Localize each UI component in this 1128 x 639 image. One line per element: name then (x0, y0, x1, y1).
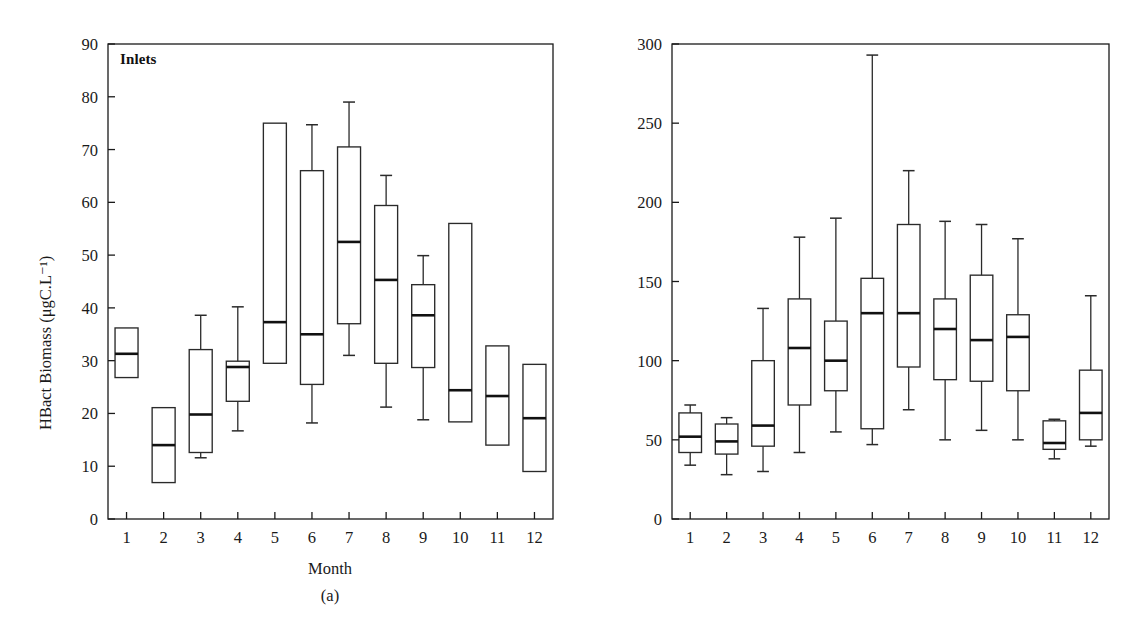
box-plot-item (338, 102, 361, 355)
panel-a-x-axis-title: Month (270, 559, 390, 579)
x-tick-label: 12 (526, 528, 543, 547)
box-plot-item (970, 225, 993, 431)
chart-panel-b: 050100150200250300123456789101112 Inner … (564, 0, 1128, 639)
box-iqr (1080, 370, 1103, 440)
x-tick-label: 2 (723, 528, 731, 547)
y-tick-label: 40 (82, 299, 99, 318)
box-iqr (861, 278, 884, 428)
y-tick-label: 60 (82, 193, 99, 212)
box-iqr (679, 413, 702, 453)
x-tick-label: 8 (382, 528, 390, 547)
boxplot-a: 0102030405060708090123456789101112 (0, 0, 564, 639)
box-iqr (375, 206, 398, 364)
x-tick-label: 9 (977, 528, 985, 547)
panel-a-y-axis-title: HBact Biomass (μgC.L⁻¹) (36, 256, 56, 430)
chart-panel-a: 0102030405060708090123456789101112 Inlet… (0, 0, 564, 639)
box-iqr (1007, 315, 1030, 391)
box-iqr (825, 321, 848, 391)
box-plot-item (486, 346, 509, 445)
x-tick-label: 8 (941, 528, 949, 547)
x-tick-label: 9 (419, 528, 427, 547)
box-iqr (189, 350, 212, 453)
box-iqr (338, 147, 361, 324)
box-plot-item (375, 175, 398, 407)
box-iqr (300, 171, 323, 385)
y-tick-label: 30 (82, 352, 99, 371)
box-plot-item (1007, 239, 1030, 440)
x-tick-label: 12 (1083, 528, 1100, 547)
y-tick-label: 250 (637, 114, 662, 133)
x-tick-label: 1 (686, 528, 694, 547)
box-iqr (263, 123, 286, 363)
x-tick-label: 2 (160, 528, 168, 547)
box-plot-item (300, 125, 323, 423)
box-iqr (715, 424, 738, 454)
x-tick-label: 10 (1010, 528, 1027, 547)
box-iqr (1043, 421, 1066, 450)
x-tick-label: 7 (905, 528, 913, 547)
y-tick-label: 100 (637, 352, 662, 371)
box-plot-item (825, 218, 848, 432)
x-tick-label: 4 (795, 528, 803, 547)
box-iqr (788, 299, 811, 405)
panel-a-caption: (a) (270, 586, 390, 606)
x-tick-label: 7 (345, 528, 353, 547)
box-plot-item (1080, 296, 1103, 446)
box-iqr (449, 223, 472, 421)
box-plot-item (523, 364, 546, 471)
x-tick-label: 11 (489, 528, 505, 547)
y-tick-label: 200 (637, 193, 662, 212)
panel-a-title: Inlets (120, 50, 156, 69)
box-plot-item (263, 123, 286, 363)
box-plot-item (152, 408, 175, 483)
y-tick-label: 70 (82, 141, 99, 160)
box-plot-item (115, 328, 138, 378)
y-tick-label: 0 (90, 510, 98, 529)
box-plot-item (189, 315, 212, 458)
y-tick-label: 20 (82, 404, 99, 423)
x-tick-label: 4 (234, 528, 242, 547)
x-tick-label: 5 (271, 528, 279, 547)
box-plot-item (226, 307, 249, 431)
box-plot-item (449, 223, 472, 421)
boxplot-b: 050100150200250300123456789101112 (564, 0, 1128, 639)
x-tick-label: 1 (122, 528, 130, 547)
box-plot-item (788, 237, 811, 452)
box-plot-item (897, 171, 920, 410)
x-tick-label: 3 (197, 528, 205, 547)
box-iqr (970, 275, 993, 381)
x-tick-label: 5 (832, 528, 840, 547)
box-iqr (412, 285, 435, 368)
x-tick-label: 6 (308, 528, 316, 547)
y-tick-label: 80 (82, 88, 99, 107)
box-iqr (752, 361, 775, 447)
x-tick-label: 3 (759, 528, 767, 547)
x-tick-label: 11 (1046, 528, 1062, 547)
y-tick-label: 90 (82, 35, 99, 54)
y-tick-label: 50 (82, 246, 99, 265)
y-tick-label: 300 (637, 35, 662, 54)
y-tick-label: 50 (646, 431, 663, 450)
box-plot-item (934, 221, 957, 440)
box-plot-item (412, 256, 435, 420)
y-tick-label: 10 (82, 457, 99, 476)
box-plot-item (752, 308, 775, 471)
box-plot-item (861, 55, 884, 445)
box-plot-item (715, 418, 738, 475)
x-tick-label: 6 (868, 528, 876, 547)
x-tick-label: 10 (452, 528, 469, 547)
y-tick-label: 0 (654, 510, 662, 529)
y-tick-label: 150 (637, 273, 662, 292)
figure-container: 0102030405060708090123456789101112 Inlet… (0, 0, 1128, 639)
box-iqr (934, 299, 957, 380)
box-plot-item (679, 405, 702, 465)
box-plot-item (1043, 419, 1066, 459)
box-iqr (897, 225, 920, 368)
